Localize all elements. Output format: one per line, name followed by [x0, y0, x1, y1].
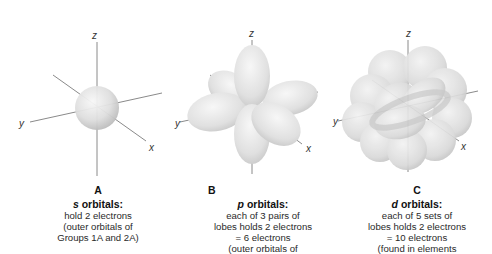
caption-line: Groups 1A and 2A) — [28, 232, 168, 243]
title-suffix: orbitals: — [398, 198, 442, 210]
s-orbital-sphere — [75, 86, 119, 130]
panel-letter: B — [188, 185, 338, 196]
x-axis-label: x — [460, 141, 467, 152]
x-axis-label: x — [305, 143, 312, 154]
caption-line: hold 2 electrons — [28, 210, 168, 221]
caption-line: each of 3 pairs of — [188, 210, 338, 221]
z-axis-label: z — [405, 28, 411, 39]
caption-title: s orbitals: — [28, 199, 168, 210]
title-suffix: orbitals: — [244, 198, 288, 210]
y-axis-label: y — [18, 118, 25, 129]
title-suffix: orbitals: — [79, 198, 123, 210]
panel-b-p-orbitals: z y x — [174, 28, 321, 174]
caption-c: C d orbitals: each of 5 sets of lobes ho… — [342, 185, 492, 254]
caption-line: (outer orbitals of — [188, 243, 338, 254]
caption-line: (found in elements — [342, 243, 492, 254]
caption-title: d orbitals: — [342, 199, 492, 210]
caption-line: lobes holds 2 electrons — [342, 221, 492, 232]
y-axis-label: y — [174, 118, 181, 129]
z-axis-label: z — [248, 28, 254, 39]
p-lobe-z-top — [234, 45, 270, 107]
panel-letter: C — [342, 185, 492, 196]
x-axis-label: x — [148, 142, 155, 153]
panel-a-s-orbital: z y x — [18, 30, 162, 176]
caption-line: = 6 electrons — [188, 232, 338, 243]
caption-a: A s orbitals: hold 2 electrons (outer or… — [28, 185, 168, 243]
caption-line: lobes holds 2 electrons — [188, 221, 338, 232]
y-axis-label: y — [332, 116, 339, 127]
panel-c-d-orbitals: z y x — [332, 28, 478, 172]
caption-title: p orbitals: — [188, 199, 338, 210]
d-orbital-cluster — [342, 46, 472, 170]
caption-b: B p orbitals: each of 3 pairs of lobes h… — [188, 185, 338, 254]
caption-line: each of 5 sets of — [342, 210, 492, 221]
panel-letter: A — [28, 185, 168, 196]
caption-line: = 10 electrons — [342, 232, 492, 243]
caption-line: (outer orbitals of — [28, 221, 168, 232]
z-axis-label: z — [91, 30, 97, 41]
